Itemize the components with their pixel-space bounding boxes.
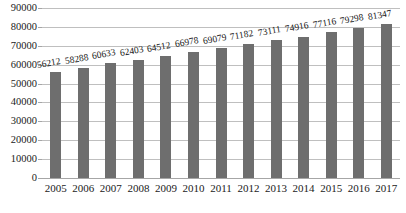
y-tick-mark — [38, 159, 42, 160]
y-axis-tick-label: 0 — [32, 173, 37, 184]
bar-value-label: 79298 — [340, 13, 365, 26]
bar — [133, 60, 144, 178]
bar-value-label: 81347 — [367, 9, 392, 22]
y-tick-mark — [38, 178, 42, 179]
x-axis-tick-label: 2011 — [210, 183, 232, 194]
bar — [381, 24, 392, 178]
bar-value-label: 69079 — [202, 33, 227, 46]
y-axis-tick-label: 20000 — [11, 135, 37, 146]
bar-value-label: 73111 — [257, 25, 281, 38]
y-axis-tick-label: 60000 — [11, 59, 37, 70]
y-tick-mark — [38, 121, 42, 122]
y-tick-mark — [38, 46, 42, 47]
bar — [353, 28, 364, 178]
y-axis-tick-label: 90000 — [11, 3, 37, 14]
bar — [160, 56, 171, 178]
x-axis-tick-label: 2009 — [155, 183, 177, 194]
x-axis-tick-label: 2016 — [348, 183, 370, 194]
gridline — [42, 8, 400, 9]
bar — [105, 63, 116, 178]
x-axis-tick-label: 2014 — [293, 183, 315, 194]
bar-value-label: 62403 — [119, 45, 144, 58]
y-tick-mark — [38, 140, 42, 141]
bar-value-label: 60633 — [92, 48, 117, 61]
y-axis-tick-label: 30000 — [11, 116, 37, 127]
x-axis-tick-label: 2013 — [265, 183, 287, 194]
axis-baseline — [42, 178, 400, 179]
y-axis: 0100002000030000400005000060000700008000… — [0, 8, 37, 178]
y-tick-mark — [38, 84, 42, 85]
plot-area: 5621258288606336240364512669786907971182… — [42, 8, 400, 178]
y-axis-tick-label: 50000 — [11, 78, 37, 89]
bar — [271, 40, 282, 178]
x-axis-tick-label: 2017 — [375, 183, 397, 194]
x-axis-tick-label: 2007 — [100, 183, 122, 194]
bar — [216, 48, 227, 178]
y-tick-mark — [38, 27, 42, 28]
bar — [188, 52, 199, 179]
x-axis-tick-label: 2006 — [72, 183, 94, 194]
y-axis-tick-label: 70000 — [11, 41, 37, 52]
bar-chart: 0100002000030000400005000060000700008000… — [0, 0, 406, 213]
x-axis-tick-label: 2005 — [45, 183, 67, 194]
x-axis-tick-label: 2015 — [320, 183, 342, 194]
bar — [243, 44, 254, 178]
x-axis: 2005200620072008200920102011201220132014… — [42, 181, 400, 201]
bar — [78, 68, 89, 178]
y-axis-tick-label: 40000 — [11, 97, 37, 108]
x-axis-tick-label: 2012 — [238, 183, 260, 194]
bar-value-label: 74916 — [284, 22, 309, 35]
gridline — [42, 27, 400, 28]
x-axis-tick-label: 2008 — [127, 183, 149, 194]
bar-value-label: 56212 — [37, 57, 62, 70]
bar — [298, 37, 309, 179]
y-axis-tick-label: 80000 — [11, 22, 37, 33]
y-tick-mark — [38, 8, 42, 9]
y-tick-mark — [38, 102, 42, 103]
bar-value-label: 66978 — [174, 37, 199, 50]
bar-value-label: 77116 — [312, 17, 337, 30]
x-axis-tick-label: 2010 — [182, 183, 204, 194]
bar — [50, 72, 61, 178]
bar-value-label: 71182 — [229, 29, 254, 42]
y-axis-tick-label: 10000 — [11, 154, 37, 165]
bar — [326, 32, 337, 178]
bar-value-label: 64512 — [147, 41, 172, 54]
